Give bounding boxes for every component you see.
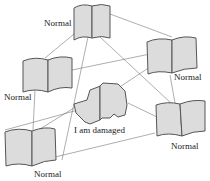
damaged-node-center — [74, 83, 127, 124]
book-node-right — [147, 37, 197, 74]
network-diagram: Normal Normal Normal I am damaged Normal… — [0, 0, 210, 181]
book-node-top — [74, 5, 110, 41]
node-label: Normal — [44, 18, 72, 28]
book-node-bottom-right — [156, 100, 205, 136]
node-label: Normal — [34, 169, 62, 179]
node-label: Normal — [171, 141, 199, 151]
node-label: Normal — [174, 72, 202, 82]
diagram-canvas: Normal Normal Normal I am damaged Normal… — [0, 0, 210, 181]
node-label: I am damaged — [74, 125, 125, 135]
book-node-left — [23, 57, 72, 92]
node-label: Normal — [4, 92, 32, 102]
book-node-bottom-left — [5, 128, 56, 166]
